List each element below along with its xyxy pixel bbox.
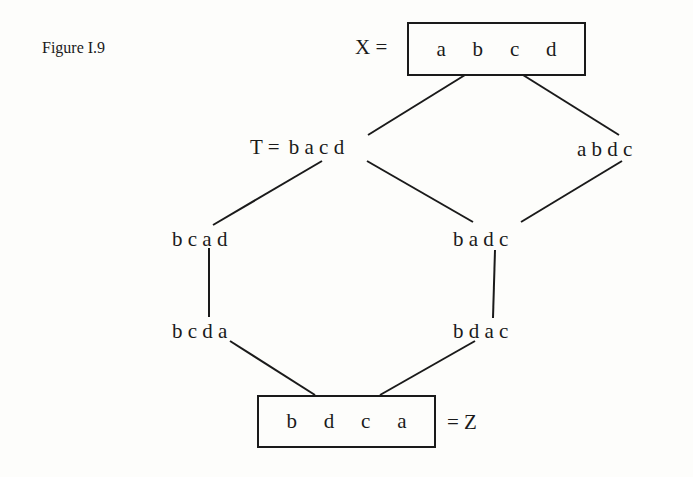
node-bcda: b c d a bbox=[172, 321, 227, 342]
node-abdc: a b d c bbox=[577, 139, 632, 160]
z-label: = Z bbox=[447, 412, 477, 433]
x-letters: a b c d bbox=[409, 24, 584, 74]
z-letter-2: d bbox=[324, 409, 335, 434]
edge-t-bcad bbox=[213, 161, 322, 225]
x-label: X = bbox=[355, 37, 387, 58]
x-letter-4: d bbox=[546, 37, 557, 62]
edge-badc-bdac bbox=[493, 250, 495, 318]
z-box: b d c a bbox=[257, 395, 436, 448]
edge-x-t bbox=[368, 75, 465, 135]
edge-abdc-badc bbox=[521, 161, 622, 222]
edge-t-badc bbox=[367, 161, 473, 222]
z-letter-3: c bbox=[361, 409, 370, 434]
figure-caption: Figure I.9 bbox=[42, 40, 105, 56]
node-bdac: b d a c bbox=[453, 321, 508, 342]
edge-bdac-z bbox=[380, 341, 475, 395]
x-letter-3: c bbox=[510, 37, 519, 62]
edge-bcda-z bbox=[230, 341, 315, 395]
t-label: T = bbox=[250, 135, 280, 159]
t-value: b a c d bbox=[289, 135, 344, 159]
edge-x-abdc bbox=[523, 75, 619, 135]
t-node: T = b a c d bbox=[250, 137, 344, 158]
z-letter-4: a bbox=[397, 409, 406, 434]
x-box: a b c d bbox=[407, 22, 586, 76]
z-letter-1: b bbox=[286, 409, 297, 434]
x-letter-2: b bbox=[473, 37, 484, 62]
x-letter-1: a bbox=[436, 37, 445, 62]
node-bcad: b c a d bbox=[172, 229, 227, 250]
z-letters: b d c a bbox=[259, 397, 434, 446]
node-badc: b a d c bbox=[453, 229, 508, 250]
figure-canvas: Figure I.9 X = a b c d T = b a c d a b d… bbox=[0, 0, 693, 477]
